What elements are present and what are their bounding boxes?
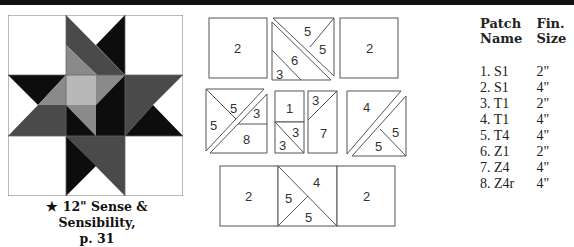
label: 3 (253, 106, 260, 121)
header-fin-size: Fin. Size (536, 16, 574, 46)
label: 5 (210, 118, 217, 133)
label: 5 (304, 24, 311, 39)
table-row: 5. T44" (480, 128, 574, 144)
label: 2 (363, 189, 370, 204)
label: 8 (243, 132, 250, 147)
table-row: 4. T14" (480, 112, 574, 128)
label: 5 (392, 125, 399, 140)
label: 4 (363, 100, 370, 115)
table-row: 3. T12" (480, 96, 574, 112)
caption-title: ★ 12" Sense & Sensibility, (8, 199, 186, 231)
label: 2 (245, 189, 252, 204)
table-header: Patch Name Fin. Size (480, 16, 574, 46)
table-row: 8. Z4r4" (480, 176, 574, 192)
patch-table: Patch Name Fin. Size 1. S12" 2. S14" 3. … (480, 16, 574, 192)
label: 5 (230, 101, 237, 116)
header-patch-name: Patch Name (480, 16, 536, 46)
table-row: 1. S12" (480, 64, 574, 80)
label: 5 (375, 139, 382, 154)
quilt-block-image (8, 15, 183, 196)
label: 3 (276, 67, 283, 82)
label: 1 (286, 101, 293, 116)
table-body: 1. S12" 2. S14" 3. T12" 4. T14" 5. T44" … (480, 64, 574, 192)
label: 5 (285, 191, 292, 206)
label: 5 (319, 42, 326, 57)
label: 5 (305, 210, 312, 225)
label: 4 (313, 175, 320, 190)
label: 6 (291, 53, 298, 68)
table-row: 2. S14" (480, 80, 574, 96)
label: 3 (292, 125, 299, 140)
block-caption: ★ 12" Sense & Sensibility, p. 31 (8, 199, 186, 247)
label: 2 (366, 41, 373, 56)
label: 2 (234, 41, 241, 56)
top-bar (0, 0, 574, 5)
label: 7 (320, 126, 327, 141)
label: 3 (312, 93, 319, 108)
table-row: 6. Z12" (480, 144, 574, 160)
label: 3 (279, 138, 286, 153)
caption-page: p. 31 (8, 231, 186, 247)
table-row: 7. Z44" (480, 160, 574, 176)
piecing-diagram: 2 5 5 6 3 2 5 5 3 8 1 3 3 3 7 4 5 5 2 4 … (200, 12, 425, 237)
